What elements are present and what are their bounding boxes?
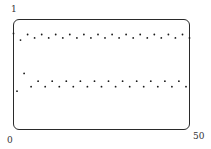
scatter-points	[0, 0, 211, 149]
data-point	[30, 86, 32, 88]
data-point	[65, 80, 67, 82]
data-point	[13, 33, 15, 35]
data-point	[146, 37, 148, 39]
data-point	[76, 37, 78, 39]
data-point	[80, 80, 82, 82]
data-point	[90, 37, 92, 39]
data-point	[168, 34, 170, 36]
data-point	[157, 86, 159, 88]
data-point	[111, 34, 113, 36]
data-point	[41, 34, 43, 36]
data-point	[125, 34, 127, 36]
data-point	[16, 90, 18, 92]
data-point	[44, 86, 46, 88]
data-point	[48, 37, 50, 39]
data-point	[129, 86, 131, 88]
y-axis-max-label: 1	[11, 5, 17, 14]
data-point	[178, 80, 180, 82]
data-point	[132, 37, 134, 39]
data-point	[69, 34, 71, 36]
data-point	[139, 34, 141, 36]
data-point	[83, 34, 85, 36]
data-point	[27, 34, 29, 36]
data-point	[55, 34, 57, 36]
data-point	[34, 37, 36, 39]
data-point	[118, 37, 120, 39]
data-point	[182, 34, 184, 36]
data-point	[136, 80, 138, 82]
data-point	[72, 86, 74, 88]
data-point	[175, 37, 177, 39]
data-point	[164, 80, 166, 82]
data-point	[150, 80, 152, 82]
data-point	[23, 73, 25, 75]
data-point	[104, 37, 106, 39]
data-point	[101, 86, 103, 88]
data-point	[122, 80, 124, 82]
data-point	[108, 80, 110, 82]
origin-label: 0	[7, 136, 13, 145]
x-axis-max-label: 50	[193, 132, 204, 141]
data-point	[37, 80, 39, 82]
data-point	[97, 34, 99, 36]
data-point	[20, 39, 22, 41]
data-point	[185, 86, 187, 88]
data-point	[153, 34, 155, 36]
data-point	[160, 37, 162, 39]
data-point	[62, 37, 64, 39]
data-point	[58, 86, 60, 88]
data-point	[143, 86, 145, 88]
data-point	[87, 86, 89, 88]
data-point	[189, 37, 191, 39]
data-point	[115, 86, 117, 88]
data-point	[51, 80, 53, 82]
data-point	[171, 86, 173, 88]
data-point	[94, 80, 96, 82]
